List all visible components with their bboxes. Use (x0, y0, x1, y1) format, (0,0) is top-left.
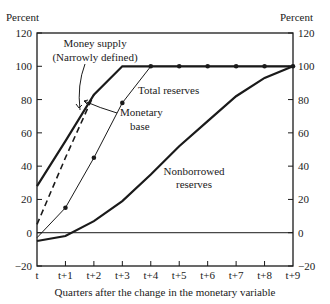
y-tick-label-right: 60 (298, 127, 310, 139)
annotation-nonborrowed-sub: reserves (176, 178, 212, 190)
x-tick-label: t+4 (143, 269, 158, 281)
annotation-total-reserves: Total reserves (138, 84, 199, 96)
data-marker (205, 64, 210, 69)
y-tick-label-left: 20 (21, 193, 33, 205)
y-axis-label-left: Percent (6, 11, 39, 23)
x-tick-label: t+1 (58, 269, 73, 281)
y-axis-label-right: Percent (280, 11, 313, 23)
annotation-money-supply-sub: (Narrowly defined) (52, 51, 138, 64)
y-tick-label-left: 80 (21, 94, 33, 106)
y-tick-label-right: 20 (298, 193, 310, 205)
data-marker (120, 101, 125, 106)
y-tick-label-left: 40 (21, 160, 33, 172)
x-tick-label: t+8 (257, 269, 272, 281)
y-tick-label-left: 100 (16, 60, 33, 72)
annotation-monetary-base: Monetary (120, 106, 163, 118)
y-tick-label-right: 100 (298, 60, 315, 72)
x-axis-label: Quarters after the change in the monetar… (55, 286, 276, 298)
y-tick-label-left: 0 (27, 227, 33, 239)
y-tick-label-right: 80 (298, 94, 310, 106)
data-marker (92, 156, 97, 161)
x-axis-ticks: tt+1t+2t+3t+4t+5t+6t+7t+8t+9 (35, 261, 300, 281)
x-tick-label: t+2 (87, 269, 102, 281)
x-tick-label: t+9 (286, 269, 301, 281)
y-tick-label-left: 120 (16, 27, 33, 39)
data-marker (234, 64, 239, 69)
y-tick-label-right: −20 (298, 260, 316, 272)
x-tick-label: t+3 (115, 269, 130, 281)
data-marker (148, 64, 153, 69)
chart: 120120100100808060604040202000−20−20 tt+… (0, 0, 330, 304)
annotation-nonborrowed: Nonborrowed (163, 165, 225, 177)
y-tick-label-right: 120 (298, 27, 315, 39)
x-tick-label: t+5 (172, 269, 187, 281)
x-tick-label: t (35, 269, 38, 281)
y-tick-label-left: −20 (15, 260, 33, 272)
y-tick-label-right: 0 (298, 227, 304, 239)
series-monetary-base (37, 95, 94, 225)
x-tick-label: t+6 (200, 269, 215, 281)
monetary-base-leader (84, 101, 117, 113)
data-marker (177, 64, 182, 69)
money-supply-leader (79, 64, 85, 110)
annotation-money-supply: Money supply (63, 37, 127, 49)
data-marker (262, 64, 267, 69)
data-marker (63, 205, 68, 210)
y-tick-label-right: 40 (298, 160, 310, 172)
annotation-monetary-base-sub: base (130, 120, 150, 132)
x-tick-label: t+7 (229, 269, 244, 281)
y-tick-label-left: 60 (21, 127, 33, 139)
